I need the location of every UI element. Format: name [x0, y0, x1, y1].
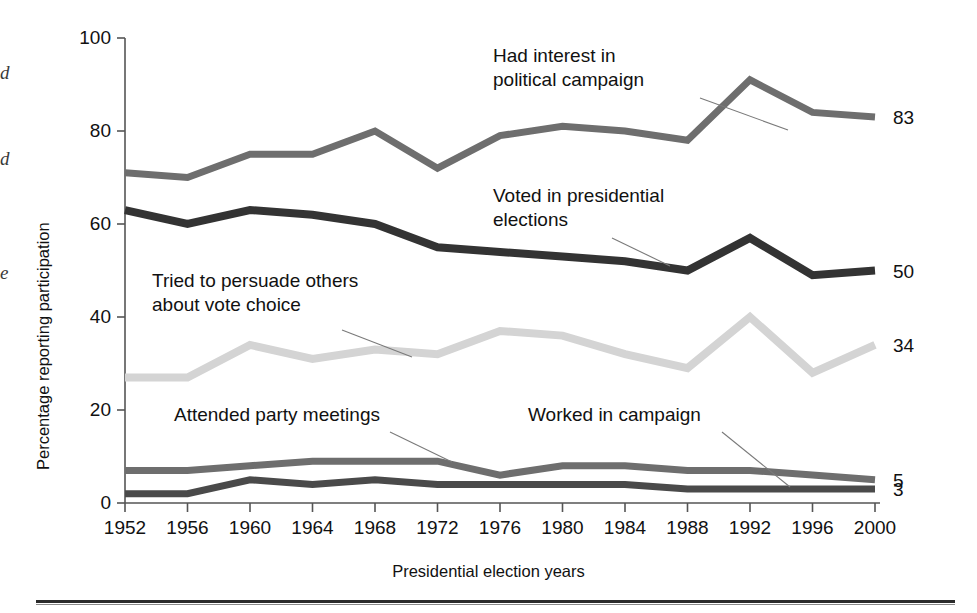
y-axis-tick-label: 20 — [90, 399, 111, 420]
x-axis-tick-label: 1992 — [729, 517, 771, 538]
y-axis-tick-label: 100 — [79, 27, 111, 48]
annotation-label: Voted in presidential — [493, 185, 664, 206]
series-end-label: 50 — [893, 261, 914, 282]
x-axis-tick-label: 1980 — [541, 517, 583, 538]
bottom-rule — [36, 600, 955, 603]
annotation-label: political campaign — [493, 69, 644, 90]
annotation-label: Worked in campaign — [528, 404, 701, 425]
y-axis-tick-label: 0 — [100, 492, 111, 513]
x-axis-tick-label: 1984 — [604, 517, 647, 538]
y-axis-tick-label: 40 — [90, 306, 111, 327]
bottom-rule-hairline — [36, 604, 955, 605]
x-axis-tick-label: 1968 — [354, 517, 396, 538]
series-end-label: 34 — [893, 335, 915, 356]
annotation-label: about vote choice — [152, 294, 301, 315]
x-axis-tick-label: 1956 — [166, 517, 208, 538]
x-axis-tick-label: 1972 — [416, 517, 458, 538]
x-axis-tick-label: 1952 — [104, 517, 146, 538]
figure-page: d d e Percentage reporting participation… — [0, 0, 977, 613]
series-line — [125, 80, 875, 178]
x-axis-tick-label: 1976 — [479, 517, 521, 538]
x-axis-tick-label: 1996 — [791, 517, 833, 538]
y-axis-tick-label: 60 — [90, 213, 111, 234]
x-axis-tick-label: 1988 — [666, 517, 708, 538]
series-end-label: 83 — [893, 107, 914, 128]
x-axis-tick-label: 1964 — [291, 517, 334, 538]
participation-line-chart: 0204060801001952195619601964196819721976… — [0, 0, 977, 560]
series-line — [125, 317, 875, 377]
x-axis-tick-label: 1960 — [229, 517, 271, 538]
annotation-label: Had interest in — [493, 45, 616, 66]
annotation-label: Attended party meetings — [174, 404, 380, 425]
y-axis-tick-label: 80 — [90, 120, 111, 141]
annotation-leader-line — [390, 432, 452, 462]
series-line — [125, 461, 875, 480]
series-line — [125, 480, 875, 494]
series-end-label: 3 — [893, 479, 904, 500]
annotation-leader-line — [722, 432, 790, 487]
annotation-label: elections — [493, 209, 568, 230]
x-axis-tick-label: 2000 — [854, 517, 896, 538]
annotation-label: Tried to persuade others — [152, 270, 358, 291]
x-axis-title: Presidential election years — [0, 562, 977, 581]
